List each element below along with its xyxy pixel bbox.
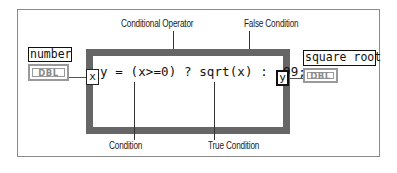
annotation-false-condition: False Condition [244,18,299,29]
dbl-type-badge: DBL [307,72,334,79]
input-wire [69,77,86,78]
input-terminal-x[interactable]: x [86,69,99,85]
output-wire [289,78,303,79]
number-label: number [28,47,72,62]
output-terminal-y[interactable]: y [276,70,289,86]
annotation-condition: Condition [109,140,142,151]
leader-condition [134,82,135,140]
dbl-type-badge: DBL [32,68,65,77]
square-root-indicator-terminal[interactable]: DBL [303,68,338,83]
square-root-label: square root [303,50,376,66]
annotation-conditional-operator: Conditional Operator [121,18,193,29]
number-control-terminal[interactable]: DBL [28,64,69,81]
formula-node[interactable] [86,49,290,134]
annotation-true-condition: True Condition [208,140,259,151]
leader-true-condition [214,82,215,140]
